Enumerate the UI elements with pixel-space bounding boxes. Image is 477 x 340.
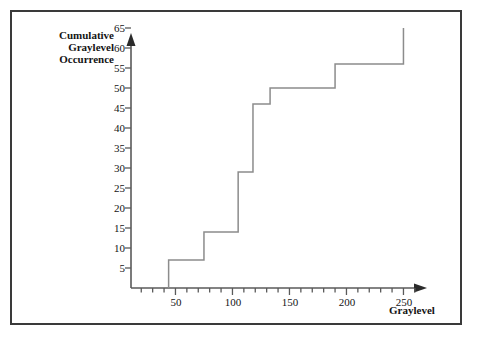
y-axis-arrowhead <box>127 33 136 46</box>
axes-group <box>127 33 428 293</box>
cumulative-graylevel-chart: Cumulative Graylevel Occurrence Grayleve… <box>0 0 477 340</box>
cumulative-step-curve <box>169 28 404 288</box>
plot-svg <box>0 0 477 340</box>
x-axis-arrowhead <box>414 284 427 293</box>
x-axis-ticks <box>141 288 415 295</box>
y-axis-ticks <box>125 28 131 268</box>
